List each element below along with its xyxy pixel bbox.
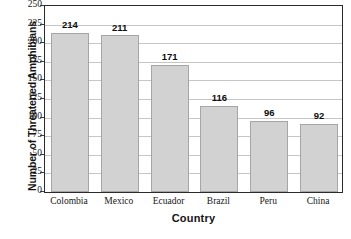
bar-rect[interactable] <box>250 121 288 192</box>
y-tick-label: 0 <box>14 186 42 196</box>
x-tick-label: Colombia <box>44 197 94 207</box>
bar-rect[interactable] <box>151 65 189 192</box>
x-tick-label: China <box>293 197 343 207</box>
bar-rect[interactable] <box>200 106 238 192</box>
y-tick-label: 25 <box>14 167 42 177</box>
x-axis-title: Country <box>44 212 343 224</box>
bar-value-label: 92 <box>288 111 350 121</box>
x-tick-label: Peru <box>243 197 293 207</box>
bar-value-label: 116 <box>188 93 250 103</box>
y-tick-label: 175 <box>14 56 42 66</box>
bar-mexico[interactable]: 211 <box>101 6 139 192</box>
bar-brazil[interactable]: 116 <box>200 6 238 192</box>
y-tick-label: 250 <box>14 0 42 10</box>
bar-peru[interactable]: 96 <box>250 6 288 192</box>
y-tick-label: 225 <box>14 19 42 29</box>
bar-colombia[interactable]: 214 <box>51 6 89 192</box>
plot-area: 2142111711169692 <box>44 5 343 193</box>
y-tick-label: 50 <box>14 149 42 159</box>
bar-rect[interactable] <box>51 33 89 192</box>
bar-rect[interactable] <box>300 124 338 192</box>
x-tick-label: Mexico <box>94 197 144 207</box>
y-tick-label: 125 <box>14 93 42 103</box>
bars-layer: 2142111711169692 <box>45 6 342 192</box>
bar-rect[interactable] <box>101 35 139 192</box>
x-tick-label: Brazil <box>194 197 244 207</box>
y-tick-label: 75 <box>14 130 42 140</box>
x-tick-label: Ecuador <box>144 197 194 207</box>
y-tick-label: 200 <box>14 37 42 47</box>
y-tick-label: 100 <box>14 112 42 122</box>
bar-chart-figure: Number of Threatened Amphibians 25022520… <box>0 0 351 239</box>
bar-value-label: 211 <box>89 23 151 33</box>
bar-china[interactable]: 92 <box>300 6 338 192</box>
bar-ecuador[interactable]: 171 <box>151 6 189 192</box>
bar-value-label: 171 <box>139 52 201 62</box>
y-tick-label: 150 <box>14 74 42 84</box>
